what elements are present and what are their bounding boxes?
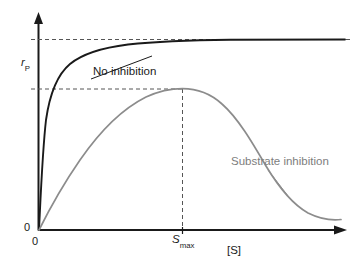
no-inhibition-curve xyxy=(39,40,345,231)
y-axis-label: rP xyxy=(21,57,30,71)
x-axis-label: [S] xyxy=(227,245,241,257)
smax-tick-label-main: S xyxy=(172,233,180,245)
y-axis xyxy=(34,12,43,231)
y-axis-label-subscript: P xyxy=(25,64,30,73)
smax-tick-label-subscript: max xyxy=(180,241,195,250)
enzyme-kinetics-chart: rP [S] Smax 0 0 No inhibition Substrate … xyxy=(0,0,361,270)
no-inhibition-annotation: No inhibition xyxy=(93,66,156,78)
substrate-inhibition-leader-line xyxy=(268,170,288,196)
y-axis-arrowhead xyxy=(34,12,43,24)
substrate-inhibition-annotation: Substrate inhibition xyxy=(231,156,329,168)
smax-tick-label: Smax xyxy=(172,234,194,248)
chart-canvas xyxy=(0,0,361,270)
x-axis-arrowhead xyxy=(334,226,347,235)
y-axis-origin-label: 0 xyxy=(24,222,30,233)
x-axis-origin-label: 0 xyxy=(32,236,38,247)
